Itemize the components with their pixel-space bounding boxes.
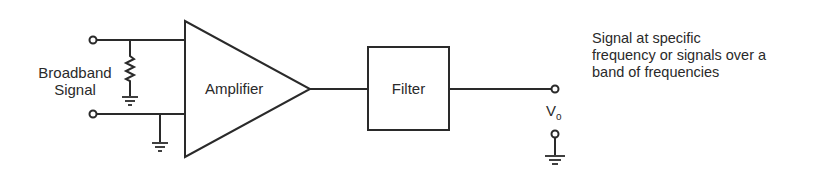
output-terminal [552, 86, 559, 93]
output-label-subscript: o [556, 111, 562, 122]
description-line-3: band of frequencies [592, 64, 766, 81]
diagram-canvas: Broadband Signal Amplifier Filter Vo Sig… [0, 0, 821, 173]
description-line-1: Signal at specific [592, 30, 766, 47]
input-terminal-bottom [90, 111, 97, 118]
input-label-line2: Signal [30, 81, 120, 98]
ground-icon-resistor [122, 97, 138, 105]
description-line-2: frequency or signals over a [592, 47, 766, 64]
output-voltage-label: Vo [546, 102, 562, 121]
input-label: Broadband Signal [30, 64, 120, 98]
input-label-line1: Broadband [30, 64, 120, 81]
ground-icon-output [545, 156, 565, 164]
amplifier-label: Amplifier [205, 80, 263, 97]
output-description: Signal at specific frequency or signals … [592, 30, 766, 81]
output-label-main: V [546, 102, 556, 119]
ground-icon-input [152, 143, 168, 151]
resistor-icon [126, 40, 134, 96]
filter-label: Filter [368, 80, 449, 97]
input-terminal-top [90, 37, 97, 44]
output-ground-terminal [552, 131, 559, 138]
